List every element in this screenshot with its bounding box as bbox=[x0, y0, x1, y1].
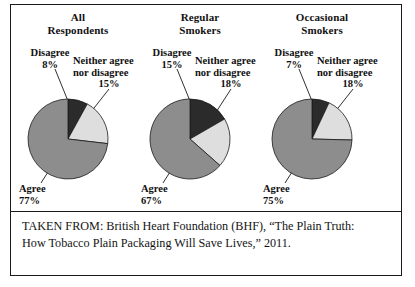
pie-slices bbox=[150, 99, 230, 179]
label-disagree-name: Disagree bbox=[31, 47, 70, 58]
figure-frame: All Respondents Disagree 8% Neither agre… bbox=[10, 4, 402, 276]
label-agree: Agree 67% bbox=[141, 183, 195, 206]
charts-area: All Respondents Disagree 8% Neither agre… bbox=[11, 5, 401, 211]
pie-panel-title-line2: Respondents bbox=[13, 24, 143, 37]
label-neither-line2: nor disagree bbox=[317, 67, 372, 78]
pie-panel-title-line1: Regular bbox=[135, 11, 265, 24]
pie-panel-occasional-smokers: Occasional Smokers Disagree 7% Neither a… bbox=[257, 5, 387, 211]
pie-panel-title-line2: Smokers bbox=[257, 24, 387, 37]
pie-panel-title: All Respondents bbox=[13, 11, 143, 36]
label-agree-name: Agree bbox=[263, 183, 290, 194]
caption-divider bbox=[11, 211, 401, 212]
figure-caption: TAKEN FROM: British Heart Foundation (BH… bbox=[22, 218, 392, 252]
pie-svg bbox=[27, 98, 109, 180]
label-agree-pct: 77% bbox=[19, 195, 40, 206]
label-agree-name: Agree bbox=[19, 183, 46, 194]
label-agree-pct: 75% bbox=[263, 195, 284, 206]
pie-slices bbox=[272, 99, 352, 179]
label-disagree-pct: 15% bbox=[162, 59, 183, 70]
pie-panel-title-line1: Occasional bbox=[257, 11, 387, 24]
label-disagree-pct: 8% bbox=[42, 59, 58, 70]
pie-chart bbox=[271, 98, 353, 180]
label-agree-name: Agree bbox=[141, 183, 168, 194]
label-neither-line1: Neither agree bbox=[195, 55, 256, 66]
pie-panel-all-respondents: All Respondents Disagree 8% Neither agre… bbox=[13, 5, 143, 211]
label-agree: Agree 75% bbox=[263, 183, 317, 206]
label-disagree-name: Disagree bbox=[275, 47, 314, 58]
pie-panel-title-line1: All bbox=[13, 11, 143, 24]
label-agree: Agree 77% bbox=[19, 183, 73, 206]
label-neither-line1: Neither agree bbox=[73, 55, 134, 66]
label-neither-line1: Neither agree bbox=[317, 55, 378, 66]
label-agree-pct: 67% bbox=[141, 195, 162, 206]
label-neither: Neither agree nor disagree 18% bbox=[317, 55, 393, 90]
pie-svg bbox=[149, 98, 231, 180]
pie-panel-title: Regular Smokers bbox=[135, 11, 265, 36]
pie-panel-title: Occasional Smokers bbox=[257, 11, 387, 36]
pie-chart bbox=[27, 98, 109, 180]
label-disagree-pct: 7% bbox=[286, 59, 302, 70]
pie-panel-title-line2: Smokers bbox=[135, 24, 265, 37]
pie-panel-regular-smokers: Regular Smokers Disagree 15% Neither agr… bbox=[135, 5, 265, 211]
caption-line-1: TAKEN FROM: British Heart Foundation (BH… bbox=[22, 218, 392, 235]
label-neither-pct: 18% bbox=[317, 78, 389, 90]
label-disagree-name: Disagree bbox=[153, 47, 192, 58]
label-neither-line2: nor disagree bbox=[195, 67, 250, 78]
label-neither-line2: nor disagree bbox=[73, 67, 128, 78]
pie-svg bbox=[271, 98, 353, 180]
pie-slices bbox=[28, 99, 108, 179]
caption-line-2: How Tobacco Plain Packaging Will Save Li… bbox=[22, 235, 392, 252]
pie-chart bbox=[149, 98, 231, 180]
